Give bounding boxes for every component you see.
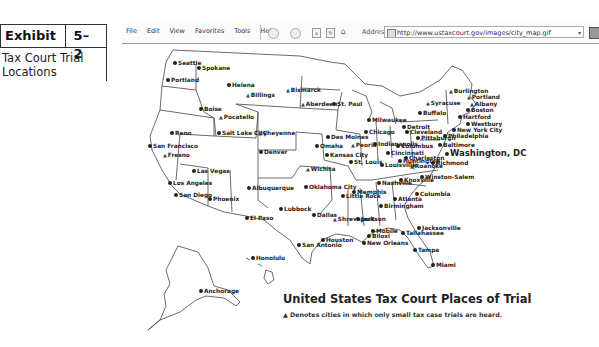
chevron-down-icon[interactable]: ▾ bbox=[578, 27, 581, 38]
city-marker: Columbus bbox=[396, 143, 433, 150]
menu-tools[interactable]: Tools bbox=[234, 27, 250, 35]
dot-icon bbox=[245, 216, 249, 220]
city-marker: Atlanta bbox=[393, 196, 422, 203]
city-label: Oklahoma City bbox=[309, 184, 357, 190]
city-marker: ▲Syracuse bbox=[426, 100, 461, 107]
triangle-icon: ▲ bbox=[467, 94, 471, 101]
dot-icon bbox=[279, 207, 283, 211]
exhibit-header: Exhibit 5–2 bbox=[0, 24, 106, 48]
city-label: Denver bbox=[264, 149, 287, 155]
triangle-icon: ▲ bbox=[301, 101, 305, 108]
city-marker: Anchorage bbox=[199, 288, 239, 295]
city-label: Boise bbox=[204, 106, 222, 112]
city-label: Columbia bbox=[420, 191, 450, 197]
city-label: Fresno bbox=[168, 152, 190, 158]
menu-favorites[interactable]: Favorites bbox=[195, 27, 224, 35]
refresh-icon[interactable]: ↻ bbox=[326, 28, 335, 38]
dot-icon bbox=[367, 234, 371, 238]
dot-icon bbox=[431, 263, 435, 267]
city-marker: Boston bbox=[466, 107, 494, 114]
city-label: Birmingham bbox=[384, 203, 424, 209]
city-marker: Tallahassee bbox=[401, 230, 444, 237]
dot-icon bbox=[364, 130, 368, 134]
triangle-icon: ▲ bbox=[306, 166, 310, 173]
dot-icon bbox=[199, 289, 203, 293]
dot-icon bbox=[192, 169, 196, 173]
city-label: Reno bbox=[175, 130, 192, 136]
city-marker: Chicago bbox=[364, 129, 395, 136]
city-marker: ▲Shreveport bbox=[333, 216, 374, 223]
dot-icon bbox=[332, 102, 336, 106]
city-label: Helena bbox=[232, 82, 255, 88]
menu-file[interactable]: File bbox=[126, 27, 137, 35]
triangle-icon: ▲ bbox=[219, 114, 223, 121]
city-marker: ▲Wichita bbox=[306, 166, 335, 173]
city-marker: ▲Portland bbox=[467, 94, 500, 101]
city-marker: Washington, DC bbox=[445, 150, 526, 157]
city-marker: Richmond bbox=[431, 160, 468, 167]
dot-icon bbox=[431, 161, 435, 165]
dot-icon bbox=[259, 150, 263, 154]
city-label: Hartford bbox=[463, 114, 491, 120]
dot-icon bbox=[399, 178, 403, 182]
dot-icon bbox=[148, 144, 152, 148]
city-label: Milwaukee bbox=[372, 117, 407, 123]
city-marker: Little Rock bbox=[341, 193, 381, 200]
dot-icon bbox=[401, 231, 405, 235]
address-url: http://www.ustaxcourt.gov/images/city_ma… bbox=[397, 29, 551, 37]
city-marker: El Paso bbox=[245, 215, 273, 222]
dot-icon bbox=[438, 143, 442, 147]
stop-icon[interactable]: x bbox=[312, 28, 321, 38]
city-marker: Des Moines bbox=[326, 134, 368, 141]
city-marker: ▲Pocatello bbox=[219, 114, 254, 121]
dot-icon bbox=[398, 159, 402, 163]
city-label: San Antonio bbox=[302, 242, 342, 248]
city-marker: Los Angeles bbox=[168, 180, 212, 187]
city-label: Philadelphia bbox=[448, 133, 489, 139]
city-label: Bismarck bbox=[291, 87, 321, 93]
dot-icon bbox=[325, 153, 329, 157]
menu-edit[interactable]: Edit bbox=[147, 27, 160, 35]
dot-icon bbox=[373, 142, 377, 146]
triangle-icon: ▲ bbox=[246, 92, 250, 99]
dot-icon bbox=[217, 131, 221, 135]
dot-icon bbox=[297, 243, 301, 247]
city-label: Cheyenne bbox=[263, 130, 295, 136]
dot-icon bbox=[362, 241, 366, 245]
dot-icon bbox=[458, 115, 462, 119]
forward-icon[interactable] bbox=[290, 28, 301, 39]
city-marker: Winston-Salem bbox=[420, 174, 474, 181]
dot-icon bbox=[304, 185, 308, 189]
city-marker: ▲Fresno bbox=[163, 152, 190, 159]
triangle-icon: ▲ bbox=[410, 163, 414, 170]
city-label: Tallahassee bbox=[406, 230, 444, 236]
home-icon[interactable]: ⌂ bbox=[340, 28, 347, 36]
city-marker: Boise bbox=[199, 106, 222, 113]
triangle-icon: ▲ bbox=[258, 130, 262, 137]
city-marker: Albuquerque bbox=[247, 185, 294, 192]
dot-icon bbox=[349, 160, 353, 164]
city-marker: Lubbock bbox=[279, 206, 311, 213]
dot-icon bbox=[174, 193, 178, 197]
menu-view[interactable]: View bbox=[169, 27, 184, 35]
city-marker: Honolulu bbox=[251, 255, 285, 262]
city-label: Wichita bbox=[311, 166, 336, 172]
city-marker: New Orleans bbox=[362, 240, 408, 247]
city-marker: San Antonio bbox=[297, 242, 342, 249]
toolbar-divider bbox=[260, 25, 261, 40]
dot-icon bbox=[199, 107, 203, 111]
city-label: Atlanta bbox=[398, 196, 422, 202]
go-button[interactable] bbox=[589, 27, 599, 39]
city-label: Albuquerque bbox=[252, 185, 294, 191]
dot-icon bbox=[443, 134, 447, 138]
triangle-icon: ▲ bbox=[351, 142, 355, 149]
exhibit-box: Exhibit 5–2 Tax Court Trial Locations bbox=[0, 24, 107, 81]
triangle-icon: ▲ bbox=[286, 87, 290, 94]
dot-icon bbox=[208, 197, 212, 201]
triangle-icon: ▲ bbox=[283, 311, 288, 318]
city-marker: San Diego bbox=[174, 192, 212, 199]
dot-icon bbox=[168, 181, 172, 185]
back-icon[interactable] bbox=[268, 28, 279, 39]
address-input[interactable]: http://www.ustaxcourt.gov/images/city_ma… bbox=[384, 26, 584, 38]
city-marker: Denver bbox=[259, 149, 287, 156]
